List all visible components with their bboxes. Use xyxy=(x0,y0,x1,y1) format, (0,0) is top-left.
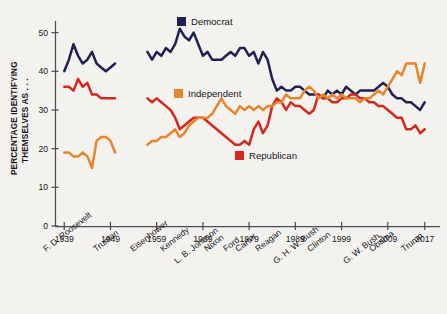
legend-label-democrat: Democrat xyxy=(191,16,233,27)
x-tick-label: 1999 xyxy=(332,234,351,244)
y-tick-label: 0 xyxy=(43,221,48,231)
legend-label-republican: Republican xyxy=(249,150,297,161)
y-tick-label: 30 xyxy=(38,105,48,115)
party-identification-line-chart: PERCENTAGE IDENTIFYING THEMSELVES AS . .… xyxy=(0,0,447,314)
y-tick-label: 40 xyxy=(38,66,48,76)
y-tick-label: 50 xyxy=(38,28,48,38)
legend-swatch-independent xyxy=(174,89,183,98)
chart-container: PERCENTAGE IDENTIFYING THEMSELVES AS . .… xyxy=(0,0,447,314)
legend-swatch-democrat xyxy=(177,17,186,26)
legend-swatch-republican xyxy=(235,151,244,160)
y-axis-title-line2: THEMSELVES AS . . . xyxy=(21,78,30,163)
y-axis-title-line1: PERCENTAGE IDENTIFYING xyxy=(10,61,19,175)
chart-background xyxy=(0,0,447,314)
legend-label-independent: Independent xyxy=(188,88,242,99)
y-tick-label: 20 xyxy=(38,144,48,154)
y-tick-label: 10 xyxy=(38,182,48,192)
